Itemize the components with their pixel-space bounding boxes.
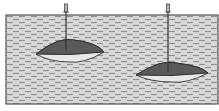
shale-layer	[6, 15, 218, 104]
reservoir-cross-section	[0, 0, 219, 111]
wellhead-icon	[167, 4, 170, 12]
rock-layer	[6, 15, 218, 104]
diagram-stage	[0, 0, 219, 111]
wellhead-icon	[65, 4, 68, 12]
